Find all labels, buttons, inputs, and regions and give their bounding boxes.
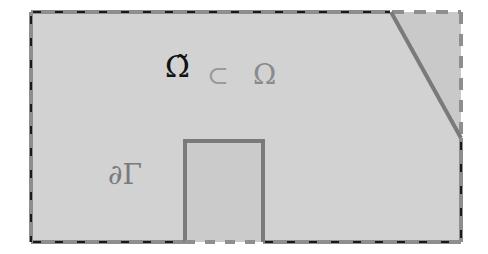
label-omega: Ω: [253, 61, 276, 89]
inner-rectangle-region: [185, 141, 263, 242]
label-boundary-gamma: ∂Γ: [108, 161, 142, 189]
domain-diagram: [0, 0, 488, 254]
label-omega-tilde: Ω̃: [165, 52, 190, 82]
label-subset-symbol: ⊂: [207, 62, 229, 88]
